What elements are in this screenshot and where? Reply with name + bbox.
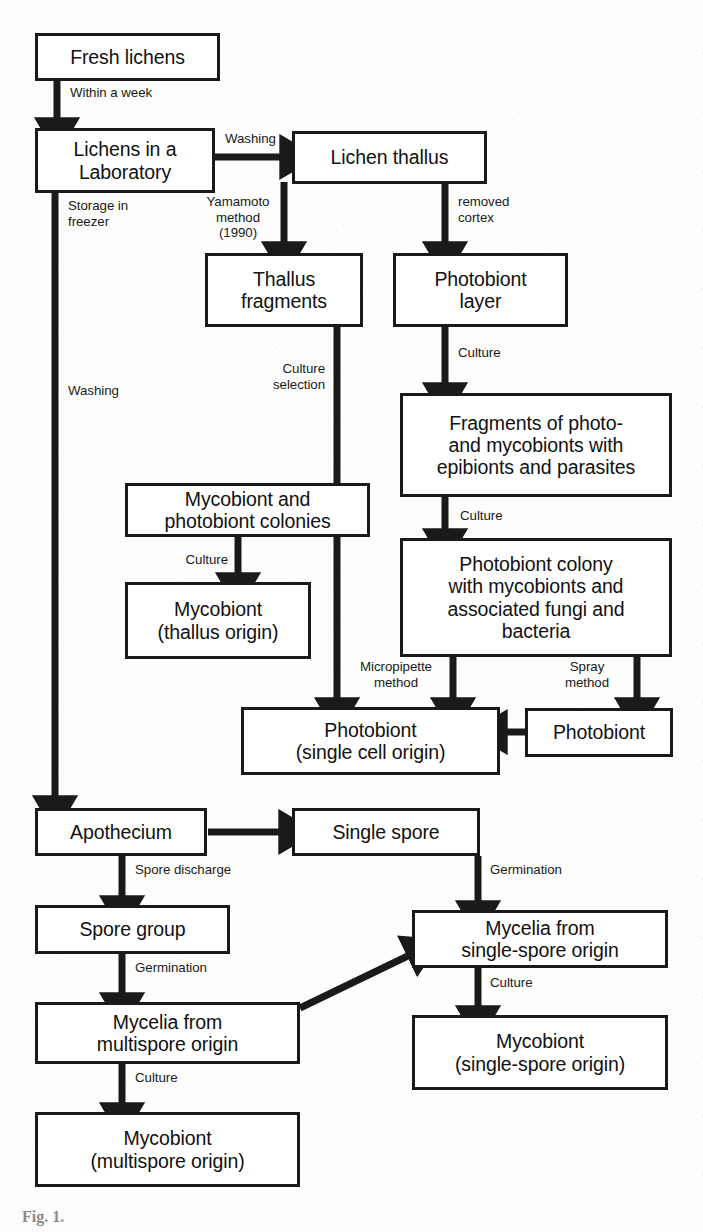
figure-caption: Fig. 1.: [22, 1208, 622, 1230]
node-label: Fresh lichens: [70, 46, 185, 68]
node-photobiont-layer[interactable]: Photobiont layer: [393, 253, 568, 327]
node-label: Mycelia from multispore origin: [97, 1011, 238, 1055]
node-label: Apothecium: [70, 821, 172, 843]
node-mycobiont-single-spore-origin[interactable]: Mycobiont (single-spore origin): [412, 1015, 668, 1090]
node-single-spore[interactable]: Single spore: [292, 808, 480, 856]
edge-label-culture-selection: Culture selection: [245, 361, 325, 392]
edge-label-germination-single-spore: Germination: [490, 862, 562, 878]
node-label: Mycelia from single-spore origin: [461, 917, 618, 961]
node-lichens-in-a-laboratory[interactable]: Lichens in a Laboratory: [35, 128, 215, 193]
edge-label-washing-1: Washing: [225, 131, 276, 147]
node-label: Spore group: [79, 918, 185, 940]
node-label: Single spore: [332, 821, 439, 843]
edge-label-storage-in-freezer: Storage in freezer: [68, 198, 128, 229]
edge-label-culture-photobiont-layer: Culture: [458, 345, 501, 361]
node-label: Mycobiont and photobiont colonies: [164, 488, 330, 532]
node-spore-group[interactable]: Spore group: [35, 905, 230, 954]
node-lichen-thallus[interactable]: Lichen thallus: [292, 131, 487, 184]
node-fragments-of-photo-and-mycobionts[interactable]: Fragments of photo- and mycobionts with …: [400, 393, 672, 497]
edge-label-yamamoto-method: Yamamoto method (1990): [196, 194, 280, 241]
node-fresh-lichens[interactable]: Fresh lichens: [35, 33, 220, 81]
node-thallus-fragments[interactable]: Thallus fragments: [205, 253, 363, 327]
node-label: Photobiont layer: [434, 268, 526, 312]
node-label: Mycobiont (single-spore origin): [455, 1030, 625, 1074]
edge-label-spray-method: Spray method: [548, 659, 626, 690]
node-mycobiont-multispore-origin[interactable]: Mycobiont (multispore origin): [35, 1112, 300, 1187]
node-label: Lichen thallus: [331, 146, 449, 168]
node-label: Photobiont: [553, 721, 645, 743]
edge-label-culture-fragments: Culture: [460, 508, 503, 524]
node-label: Photobiont colony with mycobionts and as…: [448, 553, 625, 642]
edge-label-within-a-week: Within a week: [70, 85, 152, 101]
node-mycelia-from-multispore-origin[interactable]: Mycelia from multispore origin: [35, 1002, 300, 1064]
node-label: Thallus fragments: [241, 268, 327, 312]
node-photobiont[interactable]: Photobiont: [525, 708, 673, 757]
edge-label-micropipette-method: Micropipette method: [348, 659, 444, 690]
edge-label-culture-singlespore: Culture: [490, 975, 533, 991]
edge-label-culture-colonies: Culture: [150, 552, 228, 568]
node-mycobiont-and-photobiont-colonies[interactable]: Mycobiont and photobiont colonies: [125, 483, 370, 537]
node-photobiont-colony[interactable]: Photobiont colony with mycobionts and as…: [400, 538, 672, 657]
node-mycobiont-thallus-origin[interactable]: Mycobiont (thallus origin): [125, 582, 311, 659]
node-label: Photobiont (single cell origin): [296, 719, 446, 763]
edge-label-germination-spore-group: Germination: [135, 960, 207, 976]
node-photobiont-single-cell-origin[interactable]: Photobiont (single cell origin): [241, 707, 500, 775]
node-label: Mycobiont (thallus origin): [158, 598, 279, 642]
edge-label-washing-2: Washing: [68, 383, 119, 399]
figure-page: Fresh lichens Lichens in a Laboratory Li…: [0, 0, 703, 1232]
edge-label-removed-cortex: removed cortex: [458, 194, 509, 225]
arrow-multispore-to-singlespore: [300, 953, 414, 1008]
node-label: Lichens in a Laboratory: [74, 138, 177, 182]
node-mycelia-from-single-spore-origin[interactable]: Mycelia from single-spore origin: [412, 910, 668, 968]
node-label: Fragments of photo- and mycobionts with …: [437, 412, 635, 479]
edge-label-culture-multispore: Culture: [135, 1070, 178, 1086]
node-label: Mycobiont (multispore origin): [90, 1127, 244, 1171]
edge-label-spore-discharge: Spore discharge: [135, 862, 231, 878]
node-apothecium[interactable]: Apothecium: [35, 808, 207, 856]
